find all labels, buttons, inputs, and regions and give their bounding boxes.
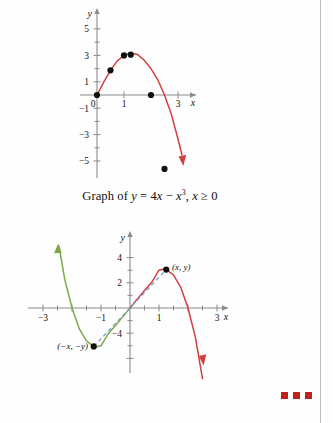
x-axis-label: x	[223, 311, 229, 322]
y-tick-label-neg3: −3	[79, 130, 89, 140]
data-point-xy	[163, 267, 169, 273]
y-tick-label-4: 4	[117, 253, 122, 263]
data-point	[161, 166, 167, 172]
caption-condition: ≥ 0	[198, 189, 218, 203]
x-tick-label-neg1: −1	[96, 313, 106, 323]
data-point	[128, 52, 134, 58]
chart-svg-2: −3 −1 1 3 4 2 −4 y x	[0, 213, 300, 378]
y-tick-label-neg4: −4	[112, 329, 122, 339]
figure-graph-restricted: 0 1 3 5 3 1 −1 −3 −5 y x	[0, 0, 300, 215]
data-point	[148, 92, 154, 98]
x-axis-arrow-icon	[222, 305, 228, 310]
data-point-neg-xy	[91, 343, 97, 349]
y-tick-label-neg1: −1	[79, 104, 89, 114]
decoration-square-icon	[293, 392, 300, 399]
y-tick-label-3: 3	[84, 51, 89, 61]
page-divider-rule	[320, 0, 321, 423]
y-axis-label: y	[120, 232, 126, 243]
x-tick-label-neg3: −3	[38, 313, 48, 323]
y-tick-label-neg5: −5	[79, 156, 89, 166]
y-tick-label-5: 5	[84, 24, 89, 34]
x-tick-label-3: 3	[215, 313, 220, 323]
x-tick-label-1: 1	[157, 313, 162, 323]
decoration-marker-row	[281, 392, 312, 399]
curve-right-branch	[130, 269, 203, 378]
curve-left-arrow-icon	[54, 244, 62, 254]
decoration-square-icon	[305, 392, 312, 399]
decoration-square-icon	[281, 392, 288, 399]
figure-1-caption: Graph of y = 4x − x3, x ≥ 0	[0, 188, 300, 204]
curve-arrow-icon	[179, 155, 187, 166]
figure-page: 0 1 3 5 3 1 −1 −3 −5 y x	[0, 0, 333, 423]
caption-lead: Graph of	[82, 189, 131, 203]
y-axis-arrow-icon	[127, 231, 132, 237]
data-point	[94, 92, 100, 98]
x-tick-label-3: 3	[176, 99, 181, 109]
plot-area-2: −3 −1 1 3 4 2 −4 y x	[0, 213, 300, 378]
x-tick-label-1: 1	[122, 99, 127, 109]
x-tick-label-0: 0	[91, 99, 96, 109]
chart-svg-1: 0 1 3 5 3 1 −1 −3 −5 y x	[0, 0, 300, 185]
point-label-xy: (x, y)	[172, 262, 190, 272]
marked-points-group-1	[94, 52, 168, 172]
y-axis-label: y	[87, 8, 93, 19]
plot-area-1: 0 1 3 5 3 1 −1 −3 −5 y x	[0, 0, 300, 185]
y-axis-arrow-icon	[94, 8, 99, 14]
x-axis-label: x	[190, 97, 196, 108]
caption-minus: −	[162, 189, 176, 203]
data-point	[107, 67, 113, 73]
y-tick-label-2: 2	[117, 278, 122, 288]
y-tick-label-1: 1	[84, 77, 89, 87]
data-point	[121, 52, 127, 58]
point-label-neg-xy: (−x, −y)	[57, 341, 88, 351]
caption-eq: = 4	[137, 189, 157, 203]
figure-graph-full: −3 −1 1 3 4 2 −4 y x	[0, 213, 300, 413]
